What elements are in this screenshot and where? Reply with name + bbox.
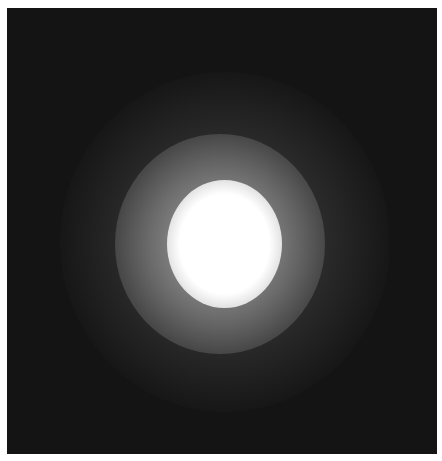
- dark-image-frame: [7, 8, 437, 454]
- bright-core: [167, 180, 282, 308]
